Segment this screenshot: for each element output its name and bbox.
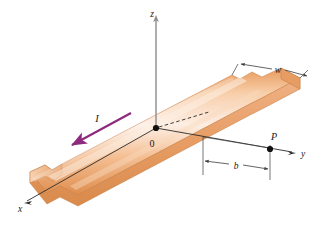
origin-dot (153, 125, 159, 131)
z-axis-label: z (149, 9, 154, 19)
origin-label: 0 (150, 138, 155, 149)
distance-arrow-right (243, 165, 268, 169)
copper-ribbon (30, 68, 300, 206)
point-p-dot (267, 146, 273, 152)
width-extension-right (300, 70, 308, 78)
distance-label: b (234, 161, 239, 171)
physics-figure-svg: z y x 0 I w b P (0, 0, 322, 225)
distance-upper-guide (203, 137, 270, 148)
point-p-label: P (270, 131, 277, 142)
x-axis-arrowhead (24, 201, 33, 205)
width-extension-left (232, 64, 238, 75)
width-arrow-left (241, 64, 272, 69)
distance-dimension-group (203, 136, 270, 180)
figure-container: z y x 0 I w b P (0, 0, 322, 225)
x-axis-label: x (17, 204, 23, 214)
current-label: I (94, 113, 99, 124)
ribbon-highlight-band-2 (70, 89, 262, 190)
distance-arrow-left (205, 161, 229, 164)
y-axis-label: y (300, 149, 306, 159)
width-label: w (275, 65, 282, 75)
point-p-group (267, 146, 273, 152)
